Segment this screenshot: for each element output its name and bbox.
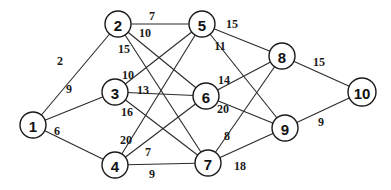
edge-weight-6-8: 14 [218,73,230,87]
edge-weight-2-5: 7 [149,9,155,23]
edge-weight-4-5: 20 [120,133,132,147]
edge-weight-4-6: 7 [145,145,151,159]
edge-2-6 [118,24,206,96]
node-4: 4 [102,152,128,178]
node-6: 6 [193,83,219,109]
edge-weight-2-6: 10 [139,26,151,40]
node-label: 3 [111,85,119,102]
node-1: 1 [20,112,46,138]
node-label: 2 [114,17,122,34]
edge-weight-6-9: 20 [217,102,229,116]
node-label: 9 [281,121,289,138]
weighted-graph-diagram: 29671015101316207915111420818159 1234567… [0,0,391,190]
node-label: 6 [202,89,210,106]
node-label: 8 [278,49,286,66]
node-7: 7 [195,150,221,176]
edge-weight-1-4: 6 [54,124,60,138]
edge-weight-1-2: 2 [57,54,63,68]
edge-4-7 [115,163,208,165]
node-10: 10 [348,78,376,106]
edge-weight-7-9: 18 [234,159,246,173]
edge-weight-5-9: 11 [214,39,225,53]
edge-weight-3-7: 16 [121,105,133,119]
node-label: 7 [204,156,212,173]
node-3: 3 [102,79,128,105]
edge-weight-7-8: 8 [224,129,230,143]
edge-weight-3-6: 13 [137,83,149,97]
node-2: 2 [105,11,131,37]
edge-weight-4-7: 9 [149,167,155,181]
edge-1-2 [33,24,118,125]
node-9: 9 [272,115,298,141]
edge-weight-5-8: 15 [226,17,238,31]
nodes-layer: 12345678910 [20,11,376,178]
node-label: 5 [198,17,206,34]
edge-weight-1-3: 9 [66,82,72,96]
node-5: 5 [189,11,215,37]
node-8: 8 [269,43,295,69]
edge-weight-3-5: 10 [122,68,134,82]
edge-weight-2-7: 15 [118,42,130,56]
node-label: 4 [111,158,120,175]
node-label: 10 [354,85,371,102]
edge-weight-8-10: 15 [313,55,325,69]
edge-weight-9-10: 9 [318,115,324,129]
node-label: 1 [29,118,37,135]
